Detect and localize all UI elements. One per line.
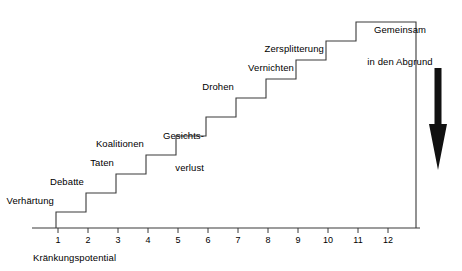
tick-label-8: 8 [258, 235, 278, 245]
tick-label-10: 10 [318, 235, 338, 245]
step-label-taten: Taten [76, 158, 114, 169]
tick-label-4: 4 [138, 235, 158, 245]
step-label-abgrund-line2: in den Abgrund [352, 57, 448, 68]
step-label-koalitionen: Koalitionen [90, 139, 144, 150]
tick-label-6: 6 [198, 235, 218, 245]
tick-label-12: 12 [378, 235, 398, 245]
step-label-gesichtsverlust: Gesichts- verlust [146, 110, 204, 194]
step-label-verhaertung: Verhärtung [0, 196, 54, 207]
tick-label-7: 7 [228, 235, 248, 245]
step-label-abgrund-line1: Gemeinsam [352, 25, 448, 36]
tick-label-1: 1 [48, 235, 68, 245]
x-axis-caption: Kränkungspotential [33, 252, 116, 263]
tick-label-2: 2 [78, 235, 98, 245]
tick-label-9: 9 [288, 235, 308, 245]
step-label-vernichten: Vernichten [238, 63, 294, 74]
escalation-staircase-diagram: Verhärtung Debatte Taten Koalitionen Ges… [0, 0, 462, 271]
step-label-drohen: Drohen [196, 82, 234, 93]
step-label-gesichtsverlust-line1: Gesichts- [146, 131, 204, 142]
tick-label-3: 3 [108, 235, 128, 245]
axis-ticks [58, 228, 388, 233]
step-label-gemeinsam-in-den-abgrund: Gemeinsam in den Abgrund [352, 4, 448, 88]
step-label-zersplitterung: Zersplitterung [252, 44, 324, 55]
step-label-debatte: Debatte [36, 177, 84, 188]
tick-label-11: 11 [348, 235, 368, 245]
tick-label-5: 5 [168, 235, 188, 245]
step-label-gesichtsverlust-line2: verlust [146, 163, 204, 174]
